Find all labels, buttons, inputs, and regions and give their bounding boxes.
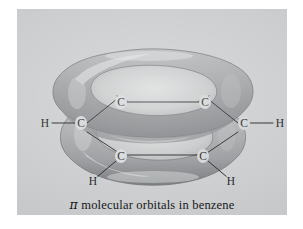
illustration-panel: C C C C C C H H H H π molecular orbitals…: [17, 9, 287, 215]
figure-caption: π molecular orbitals in benzene: [17, 197, 287, 213]
atom-label-h-front-right: H: [227, 175, 235, 187]
atom-label-c-back-left: C: [117, 96, 125, 108]
atom-label-h-left: H: [41, 117, 49, 129]
upper-lobe-top-gloss: [105, 51, 193, 61]
atom-label-h-front-left: H: [89, 175, 97, 187]
benzene-pi-orbital-illustration: C C C C C C H H H H: [17, 9, 287, 215]
atom-label-c-front-right: C: [199, 150, 207, 162]
atom-label-c-front-left: C: [117, 150, 125, 162]
atom-label-c-mid-left: C: [77, 117, 85, 129]
caption-text: molecular orbitals in benzene: [78, 198, 235, 212]
upper-lobe-right-gloss: [221, 74, 241, 108]
lower-lobe-gloss: [107, 171, 199, 183]
atom-label-c-mid-right: C: [240, 117, 248, 129]
figure-root: C C C C C C H H H H π molecular orbitals…: [0, 0, 303, 229]
upper-lobe-left-gloss: [68, 77, 86, 109]
atom-label-c-back-right: C: [201, 96, 209, 108]
atom-label-h-right: H: [276, 117, 284, 129]
pi-symbol: π: [69, 197, 77, 212]
